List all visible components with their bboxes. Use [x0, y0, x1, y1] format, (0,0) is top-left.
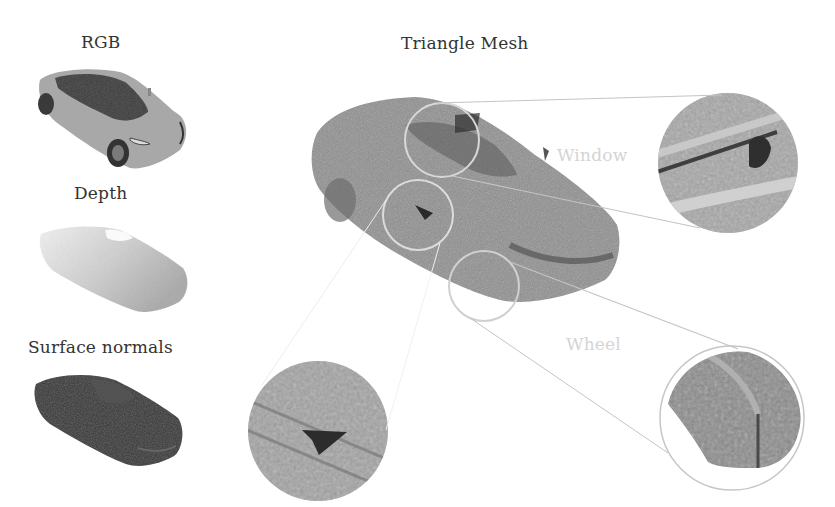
window-zoom-circle	[657, 92, 799, 234]
depth-label: Depth	[74, 183, 127, 203]
surface-normals-car-render	[30, 370, 190, 480]
triangle-mesh-title: Triangle Mesh	[401, 33, 529, 53]
wheel-zoom-circle	[658, 344, 806, 492]
surface-normals-label: Surface normals	[28, 337, 173, 357]
rgb-label: RGB	[81, 32, 120, 52]
wheel-callout-label: Wheel	[566, 334, 621, 354]
triangle-mesh-car-render	[305, 95, 625, 315]
door-zoom-circle	[247, 360, 389, 502]
rgb-car-render	[30, 60, 200, 175]
depth-car-render	[35, 220, 195, 320]
